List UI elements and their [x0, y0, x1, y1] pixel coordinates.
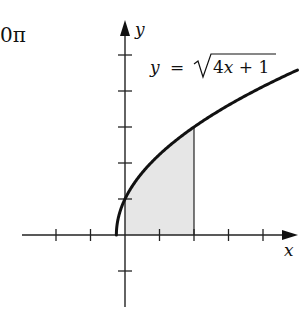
x-axis-arrow-icon — [282, 230, 298, 240]
y-axis-label: y — [134, 19, 145, 39]
function-graph: y x 0π y = 4x + 1 — [0, 0, 302, 325]
equation-radicand: 4x + 1 — [213, 57, 269, 77]
equation-equals: = — [170, 57, 184, 77]
radicand-x: x — [224, 57, 234, 77]
equation-label: y = 4x + 1 — [149, 54, 276, 77]
equation-lhs: y — [149, 57, 160, 77]
radicand-4: 4 — [213, 57, 224, 77]
radicand-rest: + 1 — [233, 57, 269, 77]
corner-text: 0π — [0, 23, 26, 47]
y-axis-arrow-icon — [120, 20, 130, 36]
x-axis-label: x — [284, 240, 294, 260]
